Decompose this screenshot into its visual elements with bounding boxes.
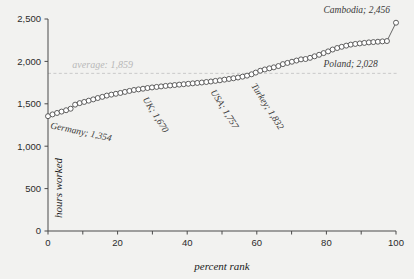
axis-ticks-group (45, 19, 397, 235)
annotation-label-germany: Germany; 1,354 (50, 120, 113, 143)
data-point-marker (394, 20, 399, 25)
annotation-label-poland: Poland; 2,028 (323, 59, 379, 69)
annotation-label-turkey: Turkey; 1,832 (249, 81, 286, 131)
axes-group (48, 19, 396, 231)
annotation-label-uk: UK; 1,670 (141, 95, 171, 135)
x-axis-tick-labels: 020406080100 (45, 237, 404, 248)
y-tick-label: 2,000 (17, 56, 41, 67)
x-tick-label: 80 (321, 237, 332, 248)
annotation-label-cambodia: Cambodia; 2,456 (324, 5, 391, 15)
x-tick-label: 100 (388, 237, 404, 248)
annotation-label-usa: USA; 1,757 (209, 88, 242, 132)
x-tick-label: 0 (45, 237, 50, 248)
y-tick-label: 2,500 (17, 13, 41, 24)
data-point-marker (68, 106, 73, 111)
y-axis-title: hours worked (52, 157, 64, 218)
y-tick-label: 500 (25, 183, 41, 194)
x-tick-label: 40 (182, 237, 193, 248)
hours-worked-scatter-chart: 05001,0001,5002,0002,500 020406080100 Ge… (0, 0, 414, 279)
x-tick-label: 20 (112, 237, 123, 248)
average-annotation-label: average: 1,859 (72, 59, 133, 70)
x-axis-title: percent rank (193, 260, 251, 272)
point-annotations-group: Germany; 1,354UK; 1,670USA; 1,757Turkey;… (50, 5, 391, 143)
y-tick-label: 1,500 (17, 98, 41, 109)
data-point-marker (384, 39, 389, 44)
y-tick-label: 1,000 (17, 141, 41, 152)
y-tick-label: 0 (36, 225, 41, 236)
chart-canvas: 05001,0001,5002,0002,500 020406080100 Ge… (0, 0, 414, 279)
x-tick-label: 60 (252, 237, 263, 248)
y-axis-tick-labels: 05001,0001,5002,0002,500 (17, 13, 41, 236)
